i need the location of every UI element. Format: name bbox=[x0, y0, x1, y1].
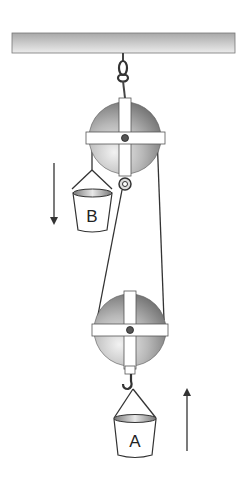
bottom-hook bbox=[123, 366, 135, 389]
bucket-b-label: B bbox=[86, 207, 97, 226]
ceiling-beam bbox=[12, 33, 235, 53]
bottom-pulley bbox=[92, 291, 168, 369]
bucket-a-label: A bbox=[129, 432, 141, 451]
bucket-a: A bbox=[114, 389, 156, 458]
down-arrow bbox=[50, 163, 58, 225]
pulley-diagram: B A bbox=[0, 0, 246, 487]
ceiling-hook bbox=[118, 53, 128, 98]
up-arrow bbox=[183, 388, 191, 451]
